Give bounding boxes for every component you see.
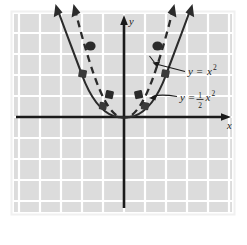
marker-point	[152, 41, 162, 50]
curve1-label-exponent: 2	[213, 63, 217, 72]
curve2-label-fraction-denominator: 2	[198, 101, 202, 110]
parabola-comparison-chart: x y y = x 2 y = 1 2 x 2	[0, 0, 247, 245]
marker-point	[78, 69, 87, 78]
y-axis-label: y	[128, 16, 134, 27]
curve2-label-fraction-numerator: 1	[198, 91, 202, 100]
curve2-label-equals: =	[189, 91, 195, 103]
figure-container: x y y = x 2 y = 1 2 x 2	[0, 0, 247, 245]
marker-point	[134, 90, 143, 99]
curve1-label-y: y	[187, 65, 193, 77]
x-axis-label: x	[226, 120, 232, 131]
marker-point	[85, 41, 95, 50]
curve2-label-base: x	[205, 91, 211, 103]
marker-point	[105, 90, 114, 99]
curve2-label-y: y	[179, 91, 185, 103]
curve1-label-equals: =	[197, 65, 203, 77]
marker-point	[161, 69, 170, 78]
curve1-label-base: x	[206, 65, 212, 77]
curve2-label-exponent: 2	[212, 89, 216, 98]
